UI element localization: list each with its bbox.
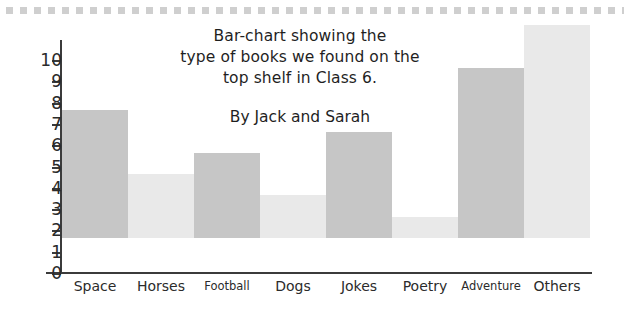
y-axis-label-10: 10	[16, 52, 62, 69]
bar-space	[62, 110, 128, 238]
bar-dogs	[260, 195, 326, 238]
x-axis-label-horses: Horses	[128, 276, 194, 296]
y-axis-label-6: 6	[16, 137, 62, 154]
bar-football	[194, 153, 260, 238]
y-axis-label-7: 7	[16, 116, 62, 133]
bar-adventure	[458, 68, 524, 238]
x-axis-label-space: Space	[62, 276, 128, 296]
dotted-rule-decoration	[6, 7, 624, 14]
y-axis-label-8: 8	[16, 95, 62, 112]
bar-others	[524, 25, 590, 238]
x-axis-label-football: Football	[194, 276, 260, 296]
x-axis-label-others: Others	[524, 276, 590, 296]
x-axis-categories: SpaceHorsesFootballDogsJokesPoetryAdvent…	[62, 276, 590, 300]
x-axis-label-adventure: Adventure	[458, 276, 524, 296]
y-axis-label-3: 3	[16, 201, 62, 218]
y-axis-label-1: 1	[16, 244, 62, 261]
x-axis-label-poetry: Poetry	[392, 276, 458, 296]
y-axis-label-5: 5	[16, 159, 62, 176]
x-axis-label-dogs: Dogs	[260, 276, 326, 296]
x-axis-label-jokes: Jokes	[326, 276, 392, 296]
y-axis: 012345678910	[0, 18, 62, 310]
bar-jokes	[326, 132, 392, 239]
worksheet-page: Bar-chart showing the type of books we f…	[0, 0, 630, 310]
bar-poetry	[392, 217, 458, 238]
y-axis-label-2: 2	[16, 222, 62, 239]
y-axis-label-9: 9	[16, 73, 62, 90]
y-axis-label-4: 4	[16, 180, 62, 197]
bar-horses	[128, 174, 194, 238]
bar-series	[62, 18, 590, 274]
bar-chart: Bar-chart showing the type of books we f…	[0, 18, 630, 310]
y-axis-label-0: 0	[16, 265, 62, 282]
